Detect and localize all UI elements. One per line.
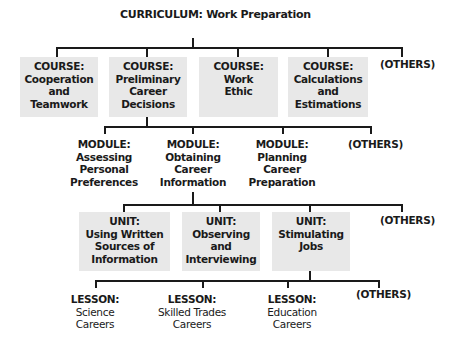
connector-lessons-bar [95, 280, 380, 282]
course-node-preliminary-career-decisions: COURSE: Preliminary Career Decisions [109, 57, 187, 117]
connector-modules-bar [104, 126, 372, 128]
connector-course-3 [237, 47, 239, 57]
unit-node-observing-interviewing: UNIT: Observing and Interviewing [182, 212, 260, 271]
module-kind-label: MODULE: [152, 138, 234, 151]
connector-course-2 [146, 47, 148, 57]
module-kind-label: MODULE: [241, 138, 323, 151]
connector-course-4 [327, 47, 329, 57]
lesson-node-skilled-trades-careers: LESSON: Skilled Trades Careers [152, 293, 232, 331]
connector-module-3 [282, 126, 284, 134]
connector-units-bar [123, 204, 403, 206]
unit-kind-label: UNIT: [296, 215, 327, 228]
connector-units-others [401, 204, 403, 212]
connector-lessons-others [378, 280, 380, 288]
connector-lesson-3 [287, 280, 289, 288]
lesson-kind-label: LESSON: [60, 293, 130, 306]
curriculum-title: CURRICULUM: Work Preparation [120, 8, 290, 21]
units-others-label: (OTHERS) [380, 214, 435, 226]
connector-lesson-1 [95, 280, 97, 288]
curriculum-hierarchy-diagram: CURRICULUM: Work Preparation COURSE: Coo… [0, 0, 451, 346]
module-node-planning-career-preparation: MODULE: Planning Career Preparation [241, 138, 323, 188]
connector-module-2 [192, 126, 194, 134]
connector-courses-bar [56, 47, 403, 49]
module-node-assessing-personal-preferences: MODULE: Assessing Personal Preferences [64, 138, 144, 188]
modules-others-label: (OTHERS) [348, 138, 403, 150]
lesson-kind-label: LESSON: [256, 293, 328, 306]
lesson-node-education-careers: LESSON: Education Careers [256, 293, 328, 331]
lesson-node-science-careers: LESSON: Science Careers [60, 293, 130, 331]
curriculum-name: Work Preparation [206, 8, 311, 21]
unit-kind-label: UNIT: [109, 215, 140, 228]
unit-kind-label: UNIT: [206, 215, 237, 228]
connector-module-1 [104, 126, 106, 134]
course-kind-label: COURSE: [34, 60, 84, 73]
course-node-cooperation-teamwork: COURSE: Cooperation and Teamwork [20, 57, 98, 117]
unit-node-using-written-sources: UNIT: Using Written Sources of Informati… [79, 212, 170, 271]
connector-unit-1 [123, 204, 125, 212]
course-node-calculations-estimations: COURSE: Calculations and Estimations [288, 57, 368, 117]
course-kind-label: COURSE: [213, 60, 263, 73]
connector-unit-3 [309, 204, 311, 212]
courses-others-label: (OTHERS) [380, 58, 435, 70]
course-kind-label: COURSE: [123, 60, 173, 73]
connector-unit-2 [219, 204, 221, 212]
lesson-kind-label: LESSON: [152, 293, 232, 306]
curriculum-kind-label: CURRICULUM: [120, 8, 203, 21]
course-node-work-ethic: COURSE: Work Ethic [199, 57, 278, 117]
module-kind-label: MODULE: [64, 138, 144, 151]
connector-courses-others [401, 47, 403, 57]
course-kind-label: COURSE: [303, 60, 353, 73]
lessons-others-label: (OTHERS) [356, 288, 411, 300]
connector-modules-others [370, 126, 372, 134]
module-node-obtaining-career-information: MODULE: Obtaining Career Information [152, 138, 234, 188]
connector-lesson-2 [202, 280, 204, 288]
connector-course-1 [56, 47, 58, 57]
unit-node-stimulating-jobs: UNIT: Stimulating Jobs [272, 212, 350, 271]
